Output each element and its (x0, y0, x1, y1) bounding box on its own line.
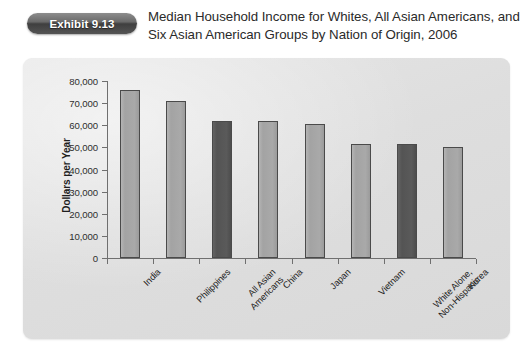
x-tick (153, 259, 154, 264)
x-tick (384, 259, 385, 264)
exhibit-badge: Exhibit 9.13 (27, 13, 137, 34)
x-tick (338, 259, 339, 264)
y-tick-label: 60,000 (69, 120, 98, 131)
y-tick (102, 147, 108, 148)
bar (212, 121, 232, 258)
y-tick-label: 70,000 (69, 98, 98, 109)
y-tick-label: 80,000 (69, 76, 98, 87)
x-tick (199, 259, 200, 264)
bar (351, 144, 371, 258)
y-tick (102, 214, 108, 215)
x-tick-label: India (142, 267, 163, 288)
chart-panel: Dollars per Year 010,00020,00030,00040,0… (23, 58, 510, 339)
x-tick-label: Japan (328, 267, 353, 292)
exhibit-figure: Exhibit 9.13 Median Household Income for… (0, 0, 532, 359)
x-tick-label: All Asian Americans (241, 267, 286, 312)
x-tick-label: Vietnam (376, 267, 407, 298)
bar (258, 121, 278, 258)
y-tick-label: 0 (93, 253, 98, 264)
y-tick-label: 40,000 (69, 164, 98, 175)
y-tick (102, 81, 108, 82)
x-tick (430, 259, 431, 264)
x-tick (292, 259, 293, 264)
y-tick-label: 50,000 (69, 142, 98, 153)
x-tick (107, 259, 108, 264)
bar (305, 124, 325, 258)
y-tick-label: 20,000 (69, 208, 98, 219)
x-tick (245, 259, 246, 264)
y-tick (102, 236, 108, 237)
y-tick-label: 10,000 (69, 230, 98, 241)
y-tick (102, 125, 108, 126)
y-tick (102, 170, 108, 171)
exhibit-header: Exhibit 9.13 Median Household Income for… (0, 0, 532, 58)
bar (120, 90, 140, 258)
y-tick (102, 192, 108, 193)
y-tick-label: 30,000 (69, 186, 98, 197)
bar (397, 144, 417, 258)
bar (166, 101, 186, 258)
bar (443, 147, 463, 258)
exhibit-title: Median Household Income for Whites, All … (148, 8, 526, 43)
x-tick-label: China (281, 267, 305, 291)
bar-chart-plot: Dollars per Year 010,00020,00030,00040,0… (23, 58, 510, 339)
x-tick-label: Philippines (195, 267, 233, 305)
y-tick (102, 103, 108, 104)
x-tick (476, 259, 477, 264)
